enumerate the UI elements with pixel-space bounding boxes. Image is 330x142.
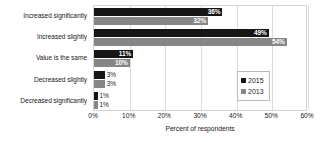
legend-item: 2015 — [241, 75, 264, 86]
x-tick-label: 10% — [122, 112, 135, 119]
bar-2015-2: 49% — [94, 29, 269, 37]
x-tick-label: 40% — [229, 112, 242, 119]
category-label: Decreased slightly — [34, 69, 87, 90]
bar-2013-5: 1% — [94, 101, 98, 109]
legend-label: 2015 — [248, 77, 264, 84]
category-label: Increased significantly — [23, 5, 87, 26]
category-axis-labels: Increased significantlyIncreased slightl… — [0, 5, 90, 111]
bar-2013-3: 10% — [94, 59, 130, 67]
bar-value-label: 3% — [107, 80, 116, 88]
bar-group: 3%3% — [94, 70, 306, 91]
bar-value-label: 10% — [115, 59, 128, 67]
bar-value-label: 32% — [193, 17, 206, 25]
bar-rows: 36%32%49%54%11%10%3%3%1%1% — [94, 6, 306, 110]
bar-value-label: 1% — [100, 92, 109, 100]
x-axis-title: Percent of respondents — [93, 125, 307, 132]
chart-legend: 20152013 — [237, 71, 270, 101]
bar-group: 11%10% — [94, 48, 306, 69]
category-label: Decreased significantly — [20, 90, 87, 111]
square-marker-icon — [241, 89, 246, 94]
gridline — [308, 6, 309, 110]
x-tick-label: 50% — [265, 112, 278, 119]
bar-2015-3: 11% — [94, 50, 133, 58]
x-tick-label: 0% — [88, 112, 98, 119]
bar-value-label: 3% — [107, 71, 116, 79]
legend-label: 2013 — [248, 88, 264, 95]
bar-chart: Increased significantlyIncreased slightl… — [0, 0, 330, 142]
category-label: Value is the same — [36, 47, 87, 68]
bar-2015-4: 3% — [94, 71, 105, 79]
bar-value-label: 11% — [119, 50, 131, 58]
bar-group: 1%1% — [94, 91, 306, 112]
bar-value-label: 49% — [254, 29, 267, 37]
bar-2013-1: 32% — [94, 17, 208, 25]
x-tick-label: 60% — [300, 112, 313, 119]
square-marker-icon — [241, 78, 246, 83]
bar-2013-2: 54% — [94, 38, 287, 46]
bar-2015-1: 36% — [94, 8, 222, 16]
bar-2015-5: 1% — [94, 92, 98, 100]
plot-area: 36%32%49%54%11%10%3%3%1%1% — [93, 5, 307, 111]
category-label: Increased slightly — [37, 26, 87, 47]
legend-item: 2013 — [241, 86, 264, 97]
bar-group: 49%54% — [94, 27, 306, 48]
bar-value-label: 54% — [272, 38, 285, 46]
x-tick-label: 20% — [158, 112, 171, 119]
bar-value-label: 1% — [100, 101, 109, 109]
x-tick-label: 30% — [193, 112, 206, 119]
bar-value-label: 36% — [208, 8, 221, 16]
bar-2013-4: 3% — [94, 80, 105, 88]
bar-group: 36%32% — [94, 6, 306, 27]
x-axis-ticks: 0%10%20%30%40%50%60% — [93, 112, 307, 124]
